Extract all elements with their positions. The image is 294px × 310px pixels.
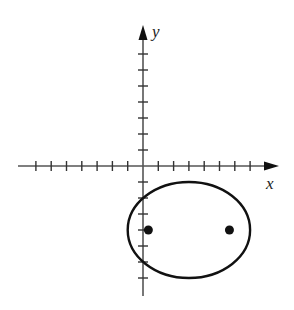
y-axis-label: y bbox=[150, 22, 160, 41]
focus-points bbox=[144, 226, 234, 235]
x-axis-arrow-icon bbox=[264, 162, 279, 171]
coordinate-diagram: x y bbox=[0, 0, 294, 310]
y-axis-arrow-icon bbox=[139, 25, 148, 40]
plot-canvas: x y bbox=[0, 0, 294, 310]
left-focus-point bbox=[144, 226, 153, 235]
right-focus-point bbox=[225, 226, 234, 235]
x-axis-label: x bbox=[265, 174, 274, 193]
